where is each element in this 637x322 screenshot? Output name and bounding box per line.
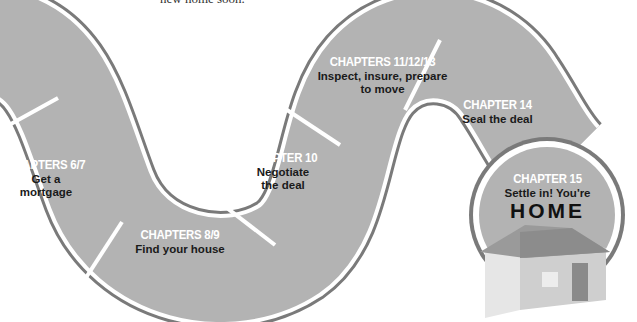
step-chapter-10: CHAPTER 10 Negotiate the deal [238, 151, 328, 192]
step-chapter-14: CHAPTER 14 Seal the deal [450, 98, 545, 126]
step-chapters-6-7: CHAPTERS 6/7 Get a mortgage [0, 158, 92, 199]
step-chapter-15: CHAPTER 15 Settle in! You're HOME [490, 172, 605, 223]
step-chapters-11-12-13: CHAPTERS 11/12/13 Inspect, insure, prepa… [305, 55, 460, 96]
home-emphasis: HOME [490, 199, 605, 223]
step-chapters-8-9: CHAPTERS 8/9 Find your house [120, 228, 240, 256]
